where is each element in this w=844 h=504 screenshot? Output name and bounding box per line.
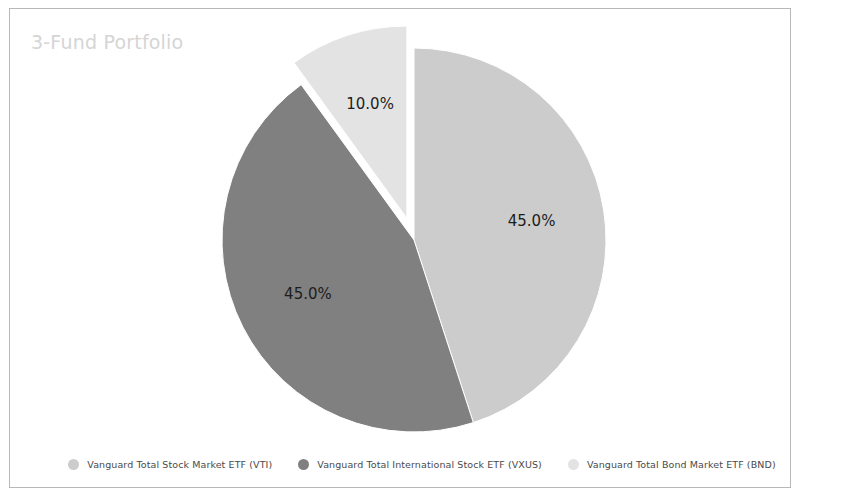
chart-legend: Vanguard Total Stock Market ETF (VTI) Va… bbox=[0, 459, 844, 470]
legend-item-vti[interactable]: Vanguard Total Stock Market ETF (VTI) bbox=[68, 459, 272, 470]
pie-chart-svg: 45.0%45.0%10.0% bbox=[0, 0, 844, 504]
legend-swatch-icon bbox=[68, 459, 79, 470]
legend-swatch-icon bbox=[568, 459, 579, 470]
legend-item-vxus[interactable]: Vanguard Total International Stock ETF (… bbox=[298, 459, 542, 470]
legend-item-bnd[interactable]: Vanguard Total Bond Market ETF (BND) bbox=[568, 459, 776, 470]
legend-swatch-icon bbox=[298, 459, 309, 470]
pie-slice-label: 45.0% bbox=[508, 212, 556, 230]
legend-item-label: Vanguard Total Stock Market ETF (VTI) bbox=[87, 459, 272, 470]
pie-slice-label: 45.0% bbox=[284, 285, 332, 303]
legend-item-label: Vanguard Total Bond Market ETF (BND) bbox=[587, 459, 776, 470]
pie-chart: 45.0%45.0%10.0% bbox=[0, 0, 844, 504]
legend-item-label: Vanguard Total International Stock ETF (… bbox=[317, 459, 542, 470]
pie-slice-label: 10.0% bbox=[346, 95, 394, 113]
